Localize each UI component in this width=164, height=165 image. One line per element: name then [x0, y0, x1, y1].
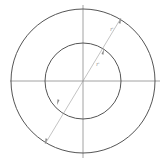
- arrowhead-icon: [57, 99, 60, 105]
- inner-radius-label: r: [96, 60, 100, 67]
- diagram-canvas: r r: [0, 0, 164, 165]
- concentric-circles-diagram: r r: [0, 0, 164, 165]
